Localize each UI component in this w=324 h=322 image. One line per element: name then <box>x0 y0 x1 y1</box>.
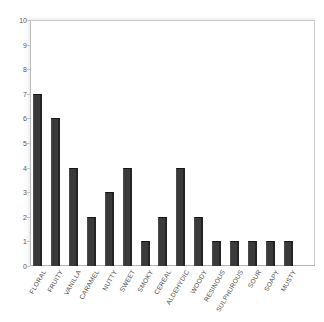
bar-chart: 012345678910 FLORALFRUITYVANILLACARAMELN… <box>0 0 324 322</box>
x-tick-label: MUSTY <box>281 269 299 293</box>
x-axis-labels: FLORALFRUITYVANILLACARAMELNUTTYSWEETSMOK… <box>30 266 320 322</box>
bar <box>141 241 150 266</box>
bar <box>33 94 42 266</box>
y-tick-label: 4 <box>3 164 27 171</box>
x-tick-label: SOAPY <box>263 269 280 293</box>
y-tick-label: 0 <box>3 263 27 270</box>
bar <box>284 241 293 266</box>
bar <box>87 217 96 266</box>
bar <box>266 241 275 266</box>
bar <box>158 217 167 266</box>
bar <box>105 192 114 266</box>
bar <box>194 217 203 266</box>
y-tick-label: 5 <box>3 140 27 147</box>
y-tick-label: 3 <box>3 189 27 196</box>
bar <box>123 168 132 266</box>
x-tick-label: NUTTY <box>102 269 119 292</box>
x-tick-label: SMOKY <box>137 269 155 293</box>
y-axis-ticks: 012345678910 <box>0 0 27 322</box>
bar <box>69 168 78 266</box>
bar <box>176 168 185 266</box>
bar <box>212 241 221 266</box>
y-tick-label: 9 <box>3 41 27 48</box>
bar <box>248 241 257 266</box>
x-tick-label: SWEET <box>119 269 137 293</box>
x-tick-label: FLORAL <box>28 269 47 295</box>
y-tick-label: 8 <box>3 66 27 73</box>
bars-layer <box>30 20 315 266</box>
y-tick-label: 7 <box>3 90 27 97</box>
x-tick-label: CARAMEL <box>79 269 101 301</box>
bar <box>51 118 60 266</box>
y-tick-label: 1 <box>3 238 27 245</box>
y-tick-label: 6 <box>3 115 27 122</box>
y-tick-label: 2 <box>3 213 27 220</box>
x-tick-label: SOUR <box>247 269 262 289</box>
y-tick-label: 10 <box>3 17 27 24</box>
bar <box>230 241 239 266</box>
